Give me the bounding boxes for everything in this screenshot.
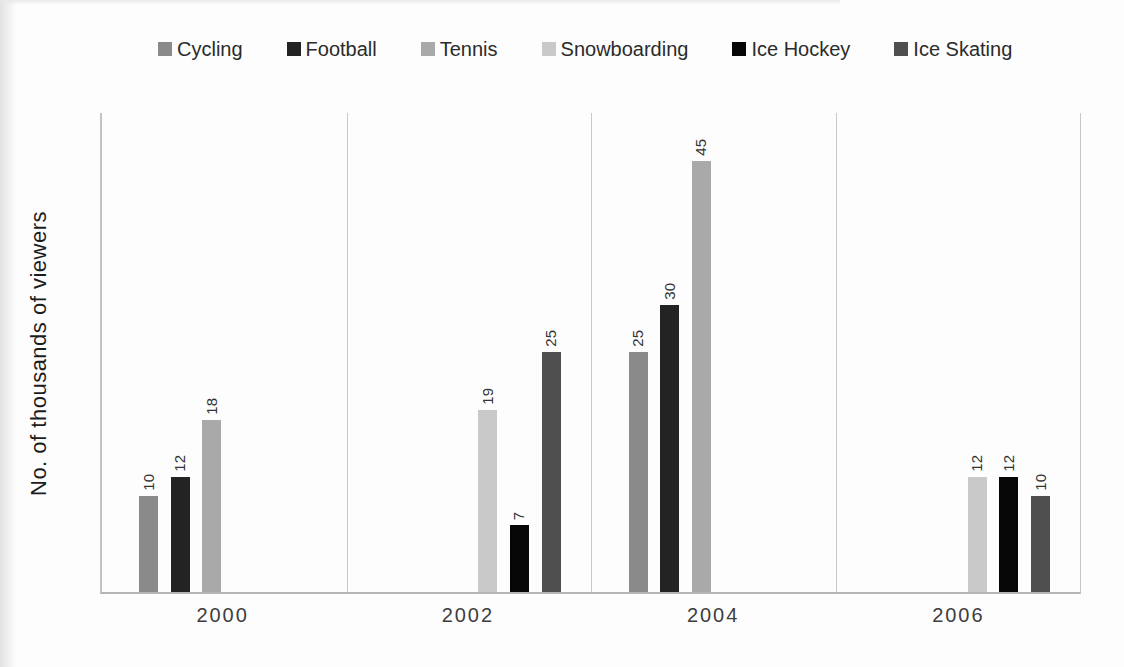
bar-chart: Cycling Football Tennis Snowboarding Ice… [0, 0, 1124, 667]
legend: Cycling Football Tennis Snowboarding Ice… [158, 34, 1012, 64]
x-axis: 2000 2002 2004 2006 [100, 604, 1081, 630]
legend-item-cycling: Cycling [158, 38, 243, 61]
legend-label: Ice Hockey [751, 38, 850, 61]
bar-value-label: 18 [203, 398, 221, 415]
bar-snowboarding-2006 [968, 477, 987, 592]
bar-tennis-2000 [202, 420, 221, 592]
category-separator-line [591, 113, 592, 592]
legend-item-ice-skating: Ice Skating [894, 38, 1012, 61]
legend-label: Ice Skating [913, 38, 1012, 61]
legend-swatch-cycling [158, 42, 172, 56]
bar-value-label: 45 [692, 139, 710, 156]
y-axis-title: No. of thousands of viewers [22, 113, 56, 594]
legend-swatch-ice-hockey [732, 42, 746, 56]
legend-item-ice-hockey: Ice Hockey [732, 38, 850, 61]
bar-value-label: 10 [1032, 474, 1050, 491]
bar-football-2000 [171, 477, 190, 592]
scan-edge-shadow-left [0, 0, 16, 667]
bar-value-label: 19 [479, 388, 497, 405]
bar-value-label: 12 [171, 455, 189, 472]
bar-value-label: 12 [968, 455, 986, 472]
legend-swatch-football [287, 42, 301, 56]
bar-value-label: 7 [510, 512, 528, 520]
bar-value-label: 10 [140, 474, 158, 491]
legend-swatch-snowboarding [542, 42, 556, 56]
legend-item-football: Football [287, 38, 377, 61]
x-axis-label-2006: 2006 [836, 604, 1081, 630]
bar-football-2004 [660, 305, 679, 592]
category-separator-line [347, 113, 348, 592]
bar-value-label: 25 [542, 330, 560, 347]
legend-label: Snowboarding [561, 38, 689, 61]
x-axis-label-2000: 2000 [100, 604, 345, 630]
bar-value-label: 25 [629, 330, 647, 347]
bar-ice-hockey-2002 [510, 525, 529, 592]
category-separator-line [836, 113, 837, 592]
legend-label: Cycling [177, 38, 243, 61]
bar-cycling-2000 [139, 496, 158, 592]
bar-cycling-2004 [629, 352, 648, 592]
bar-value-label: 12 [1000, 455, 1018, 472]
plot-area: 10251230184519127122510 [100, 113, 1081, 594]
x-axis-label-2004: 2004 [591, 604, 836, 630]
bar-ice-skating-2002 [542, 352, 561, 592]
legend-item-snowboarding: Snowboarding [542, 38, 689, 61]
bar-ice-hockey-2006 [999, 477, 1018, 592]
legend-swatch-tennis [421, 42, 435, 56]
bar-tennis-2004 [692, 161, 711, 592]
legend-swatch-ice-skating [894, 42, 908, 56]
bar-snowboarding-2002 [478, 410, 497, 592]
legend-item-tennis: Tennis [421, 38, 498, 61]
bar-ice-skating-2006 [1031, 496, 1050, 592]
legend-label: Tennis [440, 38, 498, 61]
x-axis-label-2002: 2002 [345, 604, 590, 630]
bar-value-label: 30 [661, 283, 679, 300]
legend-label: Football [306, 38, 377, 61]
scan-edge-shadow-top [0, 0, 840, 5]
